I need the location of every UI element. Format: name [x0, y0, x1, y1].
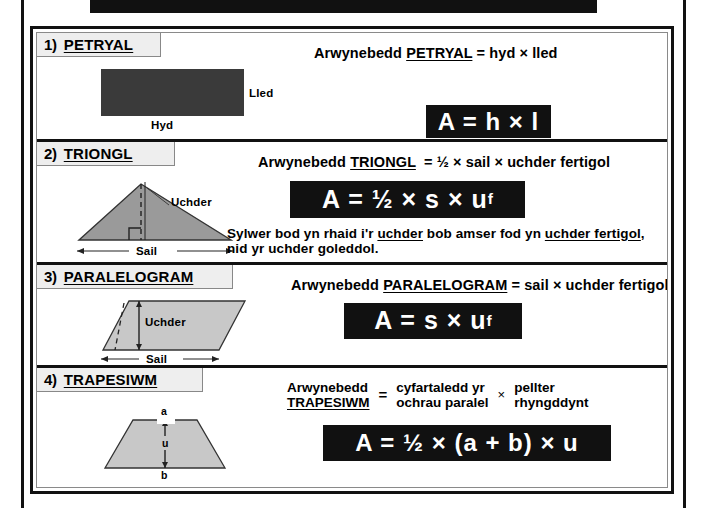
headline-equals: = — [511, 277, 520, 293]
note-underline-2: uchder fertigol — [545, 226, 641, 241]
formula-text: A = s × u — [374, 306, 486, 335]
note-triongl: Sylwer bod yn rhaid i'r uchder bob amser… — [227, 226, 667, 257]
word-equation-trapesiwm: Arwynebedd TRAPESIWM = cyfartaledd yr oc… — [287, 380, 588, 411]
word-eq-lead-line2: TRAPESIWM — [287, 395, 370, 410]
left-margin-rule — [21, 0, 24, 508]
rectangle-length-label: Hyd — [151, 119, 173, 131]
section-tab-paralelogram: 3) PARALELOGRAM — [37, 265, 233, 289]
headline-expression: hyd × lled — [489, 45, 557, 61]
formula-card-inner: 1) PETRYAL Arwynebedd PETRYAL = hyd × ll… — [36, 32, 668, 488]
parallelogram-svg — [67, 293, 287, 365]
word-eq-times: × — [498, 388, 506, 403]
formula-plate-triongl: A = ½ × s × uf — [290, 181, 525, 218]
arrow-left-icon — [77, 248, 84, 254]
section-tab-triongl: 2) TRIONGL — [37, 142, 175, 166]
triangle-base-label: Sail — [136, 245, 157, 257]
formula-subscript: f — [488, 190, 493, 208]
formula-text: A = ½ × s × u — [322, 185, 488, 214]
parallelogram-height-label: Uchder — [145, 316, 186, 328]
section-trapesiwm: 4) TRAPESIWM Arwynebedd TRAPESIWM = cyfa… — [37, 368, 667, 487]
section-tab-trapesiwm: 4) TRAPESIWM — [37, 368, 203, 392]
formula-text: A = h × l — [438, 108, 539, 136]
word-eq-lead-line1: Arwynebedd — [287, 380, 370, 395]
formula-subscript: f — [487, 312, 492, 330]
headline-shape: TRIONGL — [350, 154, 416, 170]
headline-expression: ½ × sail × uchder fertigol — [437, 154, 610, 170]
word-eq-equals: = — [379, 386, 388, 403]
headline-lead: Arwynebedd — [291, 277, 379, 293]
section-number: 1) — [44, 36, 57, 53]
section-triongl: 2) TRIONGL Arwynebedd TRIONGL = ½ × sail… — [37, 142, 667, 265]
top-black-banner — [90, 0, 597, 13]
section-title: TRIONGL — [64, 145, 133, 162]
diagram-rectangle: Lled Hyd — [81, 67, 301, 135]
section-petryal: 1) PETRYAL Arwynebedd PETRYAL = hyd × ll… — [37, 33, 667, 142]
trapezium-top-side-label: a — [161, 405, 167, 417]
formula-card: 1) PETRYAL Arwynebedd PETRYAL = hyd × ll… — [30, 26, 674, 494]
section-tab-petryal: 1) PETRYAL — [37, 33, 161, 57]
headline-petryal: Arwynebedd PETRYAL = hyd × lled — [314, 45, 558, 61]
section-title: PARALELOGRAM — [64, 268, 194, 285]
note-text-b: bob amser fod yn — [423, 226, 545, 241]
headline-expression: sail × uchder fertigol — [524, 277, 667, 293]
word-eq-term1-line2: ochrau paralel — [396, 395, 488, 410]
diagram-parallelogram: Uchder Sail — [67, 293, 287, 365]
trapezium-height-label: u — [162, 437, 169, 449]
parallelogram-base-label: Sail — [146, 353, 167, 365]
triangle-shape — [79, 184, 231, 240]
formula-plate-trapesiwm: A = ½ × (a + b) × u — [323, 425, 611, 461]
formula-plate-paralelogram: A = s × uf — [344, 303, 522, 339]
word-eq-term2-line1: pellter — [514, 380, 588, 395]
worksheet-page: 1) PETRYAL Arwynebedd PETRYAL = hyd × ll… — [0, 0, 704, 508]
headline-paralelogram: Arwynebedd PARALELOGRAM = sail × uchder … — [291, 277, 667, 293]
section-number: 4) — [44, 371, 57, 388]
note-line-2: nid yr uchder goleddol. — [227, 241, 379, 256]
note-text-a: Sylwer bod yn rhaid i'r — [227, 226, 377, 241]
word-eq-term2-line2: rhyngddynt — [514, 395, 588, 410]
right-margin-rule — [683, 0, 686, 508]
word-eq-term1-line1: cyfartaledd yr — [396, 380, 488, 395]
headline-equals: = — [424, 154, 433, 170]
arrow-left-icon — [101, 356, 108, 362]
diagram-trapezium: a u b — [65, 398, 265, 482]
word-eq-term2: pellter rhyngddynt — [514, 380, 588, 411]
rectangle-shape — [101, 69, 244, 116]
section-paralelogram: 3) PARALELOGRAM Arwynebedd PARALELOGRAM … — [37, 265, 667, 368]
trapezium-bottom-side-label: b — [161, 469, 168, 481]
headline-lead: Arwynebedd — [314, 45, 402, 61]
word-eq-term1: cyfartaledd yr ochrau paralel — [396, 380, 488, 411]
headline-shape: PETRYAL — [406, 45, 472, 61]
section-number: 2) — [44, 145, 57, 162]
section-title: PETRYAL — [64, 36, 133, 53]
note-text-c: , — [641, 226, 645, 241]
headline-lead: Arwynebedd — [258, 154, 346, 170]
section-number: 3) — [44, 268, 57, 285]
word-eq-lead: Arwynebedd TRAPESIWM — [287, 380, 370, 411]
headline-shape: PARALELOGRAM — [383, 277, 507, 293]
headline-equals: = — [477, 45, 486, 61]
formula-text: A = ½ × (a + b) × u — [355, 429, 579, 457]
triangle-height-label: Uchder — [171, 196, 212, 208]
rectangle-width-label: Lled — [249, 87, 273, 99]
arrow-right-icon — [212, 356, 219, 362]
section-title: TRAPESIWM — [64, 371, 157, 388]
formula-plate-petryal: A = h × l — [426, 105, 551, 138]
headline-triongl: Arwynebedd TRIONGL = ½ × sail × uchder f… — [258, 154, 610, 170]
note-underline-1: uchder — [377, 226, 423, 241]
